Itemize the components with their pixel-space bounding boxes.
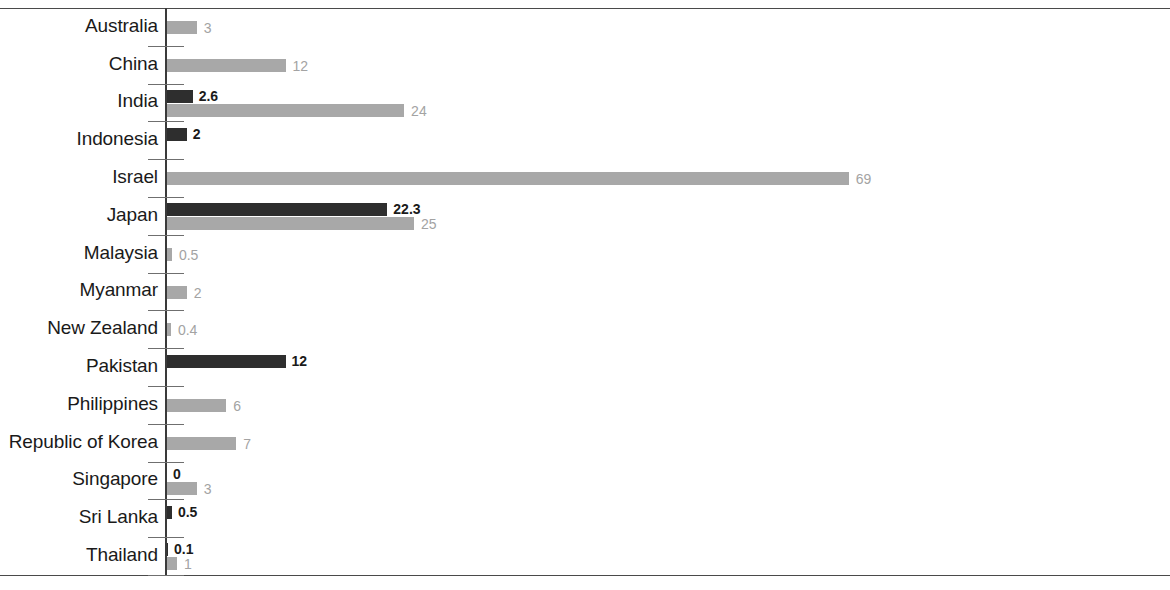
category-label: Republic of Korea	[0, 431, 158, 453]
category-label: Malaysia	[0, 242, 158, 264]
chart-row: China12	[0, 47, 1170, 85]
chart-row: Japan22.325	[0, 198, 1170, 236]
bar-light	[167, 286, 187, 299]
chart-row: Myanmar2	[0, 274, 1170, 312]
category-label: Israel	[0, 166, 158, 188]
bar-light	[167, 399, 226, 412]
category-label: Indonesia	[0, 128, 158, 150]
chart-row: Sri Lanka0.5	[0, 500, 1170, 538]
bar-light	[167, 21, 197, 34]
bar-value-light: 6	[233, 398, 241, 414]
chart-row: Singapore03	[0, 463, 1170, 501]
bar-value-light: 2	[194, 285, 202, 301]
bar-chart: Australia3China12India2.624Indonesia2Isr…	[0, 0, 1170, 590]
bar-value-light: 3	[204, 20, 212, 36]
bar-value-dark: 0.5	[178, 504, 197, 520]
bar-value-dark: 22.3	[393, 201, 420, 217]
bar-dark	[167, 543, 168, 556]
category-label: Singapore	[0, 468, 158, 490]
category-label: Pakistan	[0, 355, 158, 377]
category-label: New Zealand	[0, 317, 158, 339]
bar-value-dark: 2	[193, 126, 201, 142]
bar-light	[167, 323, 171, 336]
bar-light	[167, 482, 197, 495]
bar-value-light: 0.5	[179, 247, 198, 263]
bar-light	[167, 217, 414, 230]
category-label: Sri Lanka	[0, 506, 158, 528]
category-label: Philippines	[0, 393, 158, 415]
bar-dark	[167, 506, 172, 519]
chart-row: Australia3	[0, 9, 1170, 47]
bar-light	[167, 557, 177, 570]
bar-light	[167, 437, 236, 450]
bar-light	[167, 248, 172, 261]
category-label: Australia	[0, 15, 158, 37]
chart-row: India2.624	[0, 85, 1170, 123]
chart-row: New Zealand0.4	[0, 311, 1170, 349]
chart-row: Indonesia2	[0, 122, 1170, 160]
bar-value-dark: 0	[173, 466, 181, 482]
plot-area: Australia3China12India2.624Indonesia2Isr…	[0, 0, 1170, 590]
bar-dark	[167, 203, 387, 216]
bar-value-light: 3	[204, 481, 212, 497]
bar-light	[167, 59, 286, 72]
chart-row: Philippines6	[0, 387, 1170, 425]
category-label: Myanmar	[0, 279, 158, 301]
category-label: Thailand	[0, 544, 158, 566]
bar-value-dark: 0.1	[174, 541, 193, 557]
bar-dark	[167, 128, 187, 141]
category-label: Japan	[0, 204, 158, 226]
bar-value-light: 12	[293, 58, 309, 74]
chart-row: Malaysia0.5	[0, 236, 1170, 274]
bar-value-light: 69	[856, 171, 872, 187]
bar-light	[167, 104, 404, 117]
bar-value-light: 24	[411, 103, 427, 119]
category-label: India	[0, 90, 158, 112]
bar-light	[167, 172, 849, 185]
chart-row: Republic of Korea7	[0, 425, 1170, 463]
bar-value-light: 25	[421, 216, 437, 232]
category-label: China	[0, 53, 158, 75]
chart-row: Pakistan12	[0, 349, 1170, 387]
bar-value-light: 0.4	[178, 322, 197, 338]
bar-value-dark: 12	[292, 353, 308, 369]
bar-value-dark: 2.6	[199, 88, 218, 104]
y-axis-tick	[148, 575, 184, 576]
bar-dark	[167, 355, 286, 368]
chart-row: Israel69	[0, 160, 1170, 198]
bar-value-light: 7	[243, 436, 251, 452]
bar-dark	[167, 90, 193, 103]
bar-value-light: 1	[184, 556, 192, 572]
chart-row: Thailand0.11	[0, 538, 1170, 576]
